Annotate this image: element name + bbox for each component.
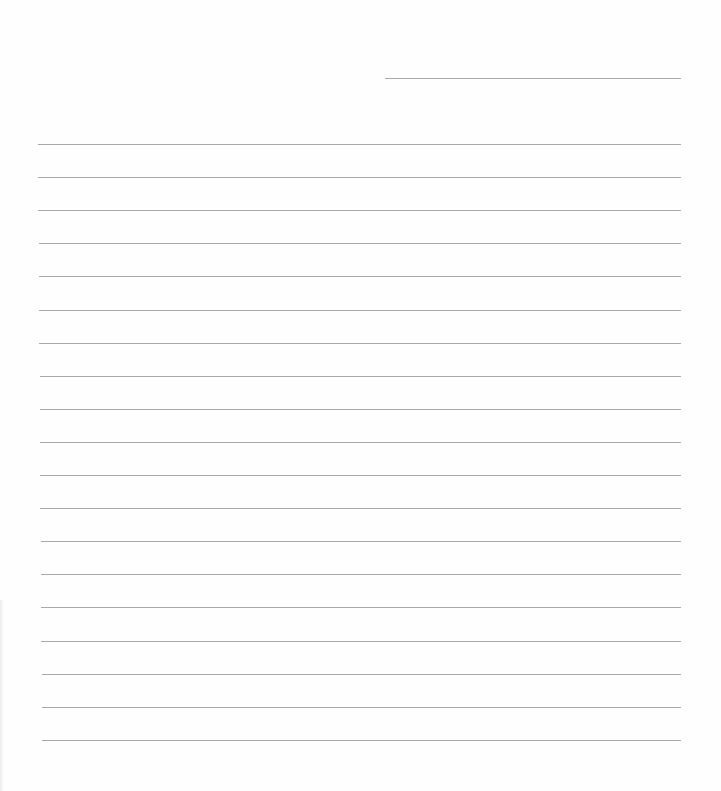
writing-line — [41, 607, 681, 608]
writing-line — [42, 674, 681, 675]
writing-line — [41, 641, 681, 642]
writing-line — [41, 574, 681, 575]
header-name-date-line — [385, 78, 681, 79]
writing-line — [40, 508, 681, 509]
writing-line — [39, 310, 681, 311]
writing-line — [40, 475, 681, 476]
writing-line — [39, 276, 681, 277]
lined-paper-page — [0, 0, 721, 791]
writing-line — [41, 541, 681, 542]
writing-line — [39, 343, 681, 344]
writing-line — [40, 409, 681, 410]
writing-line — [42, 707, 681, 708]
writing-line — [39, 243, 681, 244]
writing-line — [40, 376, 681, 377]
writing-line — [38, 144, 681, 145]
writing-line — [38, 177, 681, 178]
writing-line — [38, 210, 681, 211]
writing-line — [42, 740, 681, 741]
page-edge-shadow — [0, 600, 4, 791]
writing-line — [40, 442, 681, 443]
